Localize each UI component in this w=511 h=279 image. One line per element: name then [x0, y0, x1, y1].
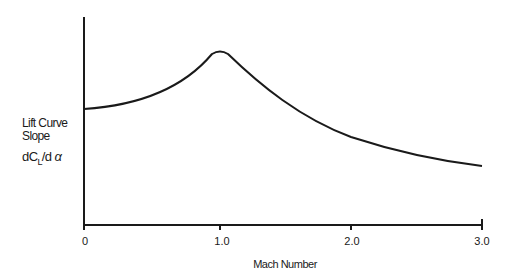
x-tick-label-0: 0: [82, 235, 88, 247]
x-tick-label-2: 2.0: [344, 235, 359, 247]
x-axis-title: Mach Number: [253, 258, 317, 270]
x-tick-label-3: 3.0: [474, 235, 489, 247]
x-tick-label-1: 1.0: [214, 235, 229, 247]
chart-plot: [0, 0, 511, 279]
lift-curve-line: [84, 52, 482, 167]
